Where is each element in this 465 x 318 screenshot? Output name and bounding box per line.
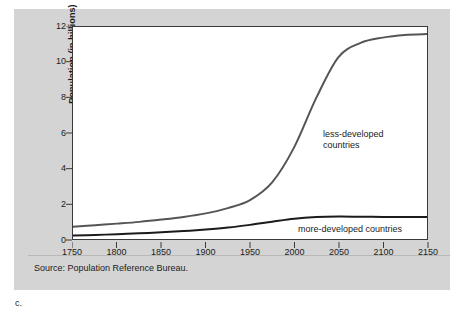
series-annotation-less-developed: less-developedcountries xyxy=(323,129,384,152)
y-tick-label: 10 xyxy=(56,57,66,66)
source-divider xyxy=(28,255,450,256)
series-annotation-more-developed: more-developed countries xyxy=(298,224,402,235)
source-note: Source: Population Reference Bureau. xyxy=(34,263,188,273)
y-axis-tick-labels: 024681012 xyxy=(44,26,66,240)
y-tick-label: 12 xyxy=(56,22,66,31)
figure-caption: c. xyxy=(15,298,22,308)
figure-panel: Population (in billions) 024681012 17501… xyxy=(14,9,450,290)
